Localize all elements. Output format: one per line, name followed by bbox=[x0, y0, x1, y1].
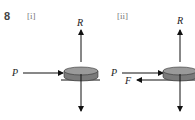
force-label-P: P bbox=[11, 67, 18, 78]
diagram-part-ii: R P F bbox=[110, 15, 195, 111]
force-diagram: 8 [i] [ii] R P R P F bbox=[0, 0, 195, 120]
force-label-P: P bbox=[110, 67, 117, 78]
part-label-ii: [ii] bbox=[117, 11, 128, 21]
force-label-R: R bbox=[76, 17, 83, 28]
part-label-i: [i] bbox=[27, 11, 36, 21]
force-label-R: R bbox=[176, 15, 183, 26]
force-label-F: F bbox=[124, 75, 132, 86]
puck bbox=[163, 67, 195, 81]
question-number: 8 bbox=[4, 10, 10, 22]
diagram-part-i: R P bbox=[11, 17, 100, 111]
